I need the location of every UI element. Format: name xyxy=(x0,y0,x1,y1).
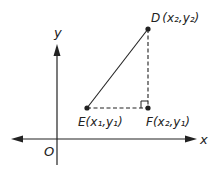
point-D xyxy=(145,26,150,31)
x-axis-left-arrow-icon xyxy=(11,136,23,143)
segment-ED xyxy=(87,29,148,108)
origin-label: O xyxy=(44,144,54,159)
point-E-label: E(x₁,y₁) xyxy=(78,115,123,129)
y-axis-arrow-icon xyxy=(54,44,61,56)
x-axis-label: x xyxy=(199,132,208,147)
point-E xyxy=(84,105,89,110)
point-F xyxy=(145,105,150,110)
x-axis-right-arrow-icon xyxy=(185,136,197,143)
coordinate-diagram: y x O D(x₂,y₂) E(x₁,y₁) F(x₂,y₁) xyxy=(0,0,220,170)
point-D-label: D(x₂,y₂) xyxy=(151,11,199,25)
point-F-label: F(x₂,y₁) xyxy=(146,115,190,129)
y-axis-label: y xyxy=(53,25,62,40)
